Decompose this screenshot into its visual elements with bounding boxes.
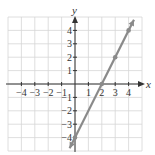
svg-text:2: 2 bbox=[67, 52, 72, 63]
svg-text:−4: −4 bbox=[61, 132, 72, 143]
svg-text:−3: −3 bbox=[61, 119, 72, 130]
svg-text:1: 1 bbox=[67, 65, 72, 76]
svg-text:1: 1 bbox=[86, 87, 91, 98]
svg-text:−4: −4 bbox=[16, 87, 27, 98]
svg-text:4: 4 bbox=[126, 87, 131, 98]
x-axis-label: x bbox=[145, 78, 151, 90]
svg-text:−3: −3 bbox=[29, 87, 40, 98]
y-axis-label: y bbox=[71, 4, 77, 16]
svg-text:3: 3 bbox=[113, 87, 118, 98]
svg-text:−2: −2 bbox=[61, 105, 72, 116]
svg-text:3: 3 bbox=[67, 38, 72, 49]
svg-text:4: 4 bbox=[67, 25, 72, 36]
coordinate-plane: −4−3−2−11234−4−3−2−11234 x y bbox=[0, 0, 155, 155]
axes bbox=[6, 16, 145, 152]
svg-text:−2: −2 bbox=[43, 87, 54, 98]
svg-text:−1: −1 bbox=[61, 92, 72, 103]
